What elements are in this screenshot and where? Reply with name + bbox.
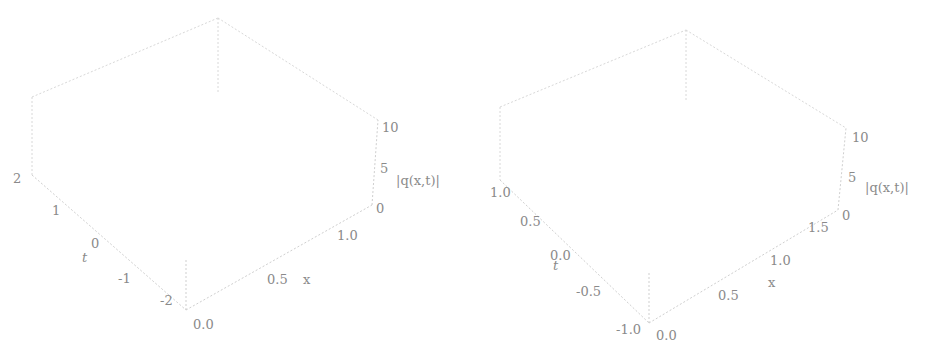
z-tick: 0 bbox=[376, 201, 384, 216]
z-tick: 0 bbox=[842, 208, 850, 223]
t-tick: 1 bbox=[52, 203, 60, 218]
x-tick: 0.5 bbox=[718, 288, 739, 303]
t-tick: -2 bbox=[160, 293, 173, 308]
x-axis-label: x bbox=[768, 275, 776, 290]
t-tick: 2 bbox=[13, 171, 21, 186]
x-axis-label: x bbox=[303, 272, 311, 287]
t-tick: 0 bbox=[91, 236, 99, 251]
t-tick: -0.5 bbox=[576, 284, 601, 299]
bounding-box-front bbox=[500, 128, 846, 323]
t-tick: -1.0 bbox=[616, 322, 641, 337]
x-tick: 0.0 bbox=[193, 317, 214, 332]
z-axis-label: |q(x,t)| bbox=[865, 180, 909, 195]
surface-plot-right: 1.0 0.5 0.0 -0.5 -1.0 t 0.0 0.5 1.0 1.5 … bbox=[468, 0, 936, 363]
surface-plot-left: 2 1 0 -1 -2 t 0.0 0.5 1.0 x 10 5 0 |q(x,… bbox=[0, 0, 468, 363]
surface-canvas-left: 2 1 0 -1 -2 t 0.0 0.5 1.0 x 10 5 0 |q(x,… bbox=[0, 0, 468, 363]
bounding-box-back bbox=[500, 30, 846, 180]
x-tick: 1.0 bbox=[337, 228, 358, 243]
bounding-box-back bbox=[32, 18, 378, 175]
t-tick: -1 bbox=[118, 271, 131, 286]
x-tick: 1.0 bbox=[770, 253, 791, 268]
x-tick: 0.5 bbox=[267, 272, 288, 287]
bounding-box-front bbox=[32, 120, 378, 310]
z-tick: 5 bbox=[380, 161, 388, 176]
x-tick: 1.5 bbox=[808, 220, 829, 235]
surface-canvas-right: 1.0 0.5 0.0 -0.5 -1.0 t 0.0 0.5 1.0 1.5 … bbox=[468, 0, 936, 363]
t-tick: 0.5 bbox=[520, 214, 541, 229]
z-tick: 5 bbox=[848, 170, 856, 185]
t-axis-label: t bbox=[553, 258, 559, 273]
x-tick: 0.0 bbox=[656, 328, 677, 343]
t-tick: 1.0 bbox=[490, 185, 511, 200]
z-tick: 10 bbox=[382, 120, 399, 135]
z-tick: 10 bbox=[852, 130, 869, 145]
t-axis-label: t bbox=[82, 250, 88, 265]
z-axis-label: |q(x,t)| bbox=[396, 173, 440, 188]
